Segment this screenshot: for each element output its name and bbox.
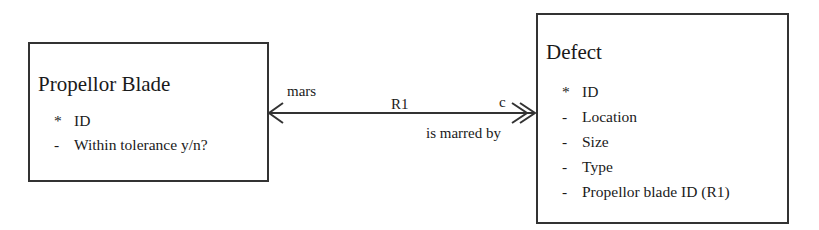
relationship-line [0, 0, 819, 230]
forward-phrase: mars [287, 83, 316, 100]
relationship-id: R1 [391, 96, 409, 113]
reverse-phrase: is marred by [426, 125, 501, 142]
multiplicity-conditional: c [499, 94, 506, 111]
